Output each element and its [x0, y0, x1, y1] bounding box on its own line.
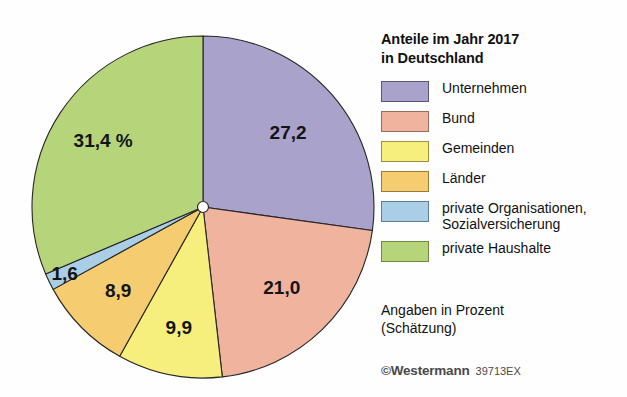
legend-item: Gemeinden — [381, 140, 625, 162]
legend-item-label: private Haushalte — [442, 240, 551, 256]
legend-color-swatch — [381, 201, 429, 222]
credit-publisher: ©Westermann — [381, 363, 470, 378]
legend-item: Bund — [381, 110, 625, 132]
legend-item-label: private Organisationen, Sozialversicheru… — [442, 200, 587, 232]
pie-center-marker — [198, 202, 209, 213]
credit-line: ©Westermann 39713EX — [381, 363, 521, 378]
pie-value-label: 27,2 — [270, 122, 307, 143]
legend-color-swatch — [381, 111, 429, 132]
legend-color-swatch — [381, 171, 429, 192]
credit-code: 39713EX — [476, 365, 521, 377]
legend-item-label: Unternehmen — [442, 80, 527, 96]
legend-panel: Anteile im Jahr 2017 in Deutschland Unte… — [381, 30, 625, 390]
legend-item: private Organisationen, Sozialversicheru… — [381, 200, 625, 232]
legend-color-swatch — [381, 141, 429, 162]
pie-value-label: 1,6 — [51, 263, 77, 284]
pie-value-label: 9,9 — [166, 317, 192, 338]
legend-item: private Haushalte — [381, 240, 625, 262]
units-note: Angaben in Prozent (Schätzung) — [381, 302, 504, 337]
pie-chart: 27,221,09,98,91,631,4 % — [26, 28, 382, 388]
legend-item-label: Gemeinden — [442, 140, 514, 156]
pie-value-label: 8,9 — [105, 280, 131, 301]
legend-item: Länder — [381, 170, 625, 192]
legend-item-label: Länder — [442, 170, 486, 186]
pie-value-label: 31,4 % — [74, 130, 133, 151]
pie-chart-svg: 27,221,09,98,91,631,4 % — [26, 28, 382, 388]
pie-chart-infographic: 27,221,09,98,91,631,4 % Anteile im Jahr … — [0, 0, 627, 397]
legend-color-swatch — [381, 81, 429, 102]
legend-item: Unternehmen — [381, 80, 625, 102]
legend-color-swatch — [381, 241, 429, 262]
legend-item-label: Bund — [442, 110, 475, 126]
pie-value-label: 21,0 — [263, 277, 300, 298]
legend-title: Anteile im Jahr 2017 in Deutschland — [381, 30, 625, 67]
legend-list: UnternehmenBundGemeindenLänderprivate Or… — [381, 80, 625, 262]
